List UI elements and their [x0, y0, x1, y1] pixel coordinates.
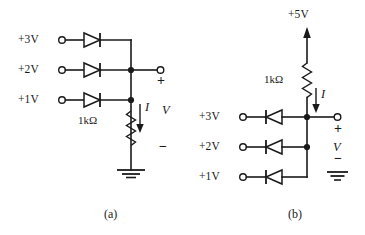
ground-a — [117, 170, 145, 178]
circuit-drawing — [0, 0, 365, 235]
terminal-b-1v[interactable] — [240, 174, 247, 181]
label-a-source-2v: +2V — [18, 64, 39, 76]
terminal-a-2v[interactable] — [59, 67, 66, 74]
label-a-current: I — [145, 101, 149, 114]
figure-canvas: +3V +2V +1V 1kΩ I V + − (a) +5V 1kΩ I +3… — [0, 0, 365, 235]
ground-b — [327, 172, 348, 180]
label-b-source-2v: +2V — [199, 141, 220, 153]
label-a-plus: + — [157, 74, 165, 88]
label-b-minus: − — [334, 152, 342, 166]
terminal-b-2v[interactable] — [240, 144, 247, 151]
terminal-a-1v[interactable] — [59, 97, 66, 104]
node-a-1v — [128, 97, 134, 103]
supply-arrow-b — [303, 27, 311, 63]
label-b-supply: +5V — [288, 9, 309, 21]
label-a-resistor: 1kΩ — [78, 115, 97, 126]
label-b-source-1v: +1V — [199, 171, 220, 183]
terminal-b-output[interactable] — [334, 114, 341, 121]
label-b-resistor: 1kΩ — [264, 74, 283, 85]
label-b-source-3v: +3V — [199, 111, 220, 123]
label-b-current: I — [321, 88, 325, 101]
label-a-voltage: V — [162, 104, 170, 117]
diode-b-3v — [266, 110, 282, 124]
diode-a-3v — [84, 33, 100, 47]
terminal-b-3v[interactable] — [240, 114, 247, 121]
diode-a-2v — [84, 63, 100, 77]
caption-b: (b) — [288, 208, 302, 220]
label-b-plus: + — [334, 122, 342, 136]
circuit-b-group — [240, 27, 348, 184]
resistor-b-1k — [303, 63, 312, 98]
terminal-a-3v[interactable] — [59, 37, 66, 44]
node-b-2v — [304, 144, 310, 150]
diode-b-2v — [266, 140, 282, 154]
caption-a: (a) — [104, 208, 117, 220]
current-arrow-a — [136, 104, 143, 133]
diode-b-1v — [266, 170, 282, 184]
label-a-source-3v: +3V — [18, 34, 39, 46]
label-a-source-1v: +1V — [18, 94, 39, 106]
label-a-minus: − — [159, 140, 167, 154]
current-arrow-b — [312, 88, 319, 113]
diode-a-1v — [84, 93, 100, 107]
